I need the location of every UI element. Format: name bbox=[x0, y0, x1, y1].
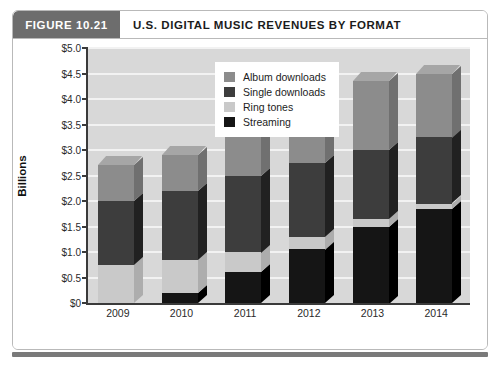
bar-segment bbox=[416, 204, 452, 209]
bar-segment-side bbox=[389, 73, 398, 150]
bar-segment bbox=[289, 237, 325, 250]
legend-label: Album downloads bbox=[243, 71, 326, 83]
legend-swatch bbox=[224, 72, 235, 82]
legend-item: Single downloads bbox=[224, 84, 326, 99]
gridline bbox=[88, 277, 470, 279]
y-axis-tick bbox=[82, 73, 88, 75]
y-axis-tick bbox=[82, 226, 88, 228]
x-tick-labels: 200920102011201220132014 bbox=[86, 307, 470, 327]
x-tick-label: 2012 bbox=[297, 307, 320, 319]
gridline bbox=[88, 175, 470, 177]
bar-segment-side bbox=[452, 129, 461, 203]
gridline bbox=[88, 149, 470, 151]
x-tick-label: 2010 bbox=[170, 307, 193, 319]
legend-item: Ring tones bbox=[224, 99, 326, 114]
legend-label: Single downloads bbox=[243, 86, 325, 98]
bar-segment-top bbox=[416, 65, 460, 74]
y-axis-tick bbox=[82, 47, 88, 49]
bar-segment bbox=[289, 249, 325, 303]
bar-segment bbox=[225, 176, 261, 253]
bar-segment-side bbox=[389, 218, 398, 303]
x-tick-label: 2014 bbox=[424, 307, 447, 319]
bar-segment bbox=[162, 191, 198, 260]
legend-swatch bbox=[224, 87, 235, 97]
bar-stack bbox=[98, 48, 134, 303]
bar-segment bbox=[353, 227, 389, 304]
bar-segment-side bbox=[389, 142, 398, 219]
bar-segment bbox=[353, 81, 389, 150]
bar-segment bbox=[162, 260, 198, 293]
y-tick-label: $0 bbox=[70, 298, 81, 309]
legend-item: Streaming bbox=[224, 114, 326, 129]
figure-title: U.S. DIGITAL MUSIC REVENUES BY FORMAT bbox=[133, 11, 401, 38]
y-axis-title: Billions bbox=[16, 155, 28, 197]
y-axis-tick bbox=[82, 98, 88, 100]
bar-segment-side bbox=[261, 167, 270, 252]
y-axis-tick bbox=[82, 277, 88, 279]
y-tick-label: $4.5 bbox=[62, 68, 81, 79]
y-axis-tick bbox=[82, 149, 88, 151]
bar-segment bbox=[353, 150, 389, 219]
x-tick-label: 2009 bbox=[106, 307, 129, 319]
bar-segment bbox=[225, 272, 261, 303]
bar-stack bbox=[416, 48, 452, 303]
y-axis-tick bbox=[82, 124, 88, 126]
bar-segment-side bbox=[198, 183, 207, 260]
gridline bbox=[88, 200, 470, 202]
bar-segment bbox=[98, 201, 134, 265]
bar-segment-side bbox=[134, 193, 143, 265]
bar-segment-side bbox=[452, 201, 461, 303]
bar-stack bbox=[353, 48, 389, 303]
y-tick-label: $3.5 bbox=[62, 119, 81, 130]
y-axis-tick bbox=[82, 251, 88, 253]
bar-segment bbox=[162, 155, 198, 191]
y-tick-label: $1.5 bbox=[62, 221, 81, 232]
legend-swatch bbox=[224, 117, 235, 127]
bar-segment-side bbox=[325, 155, 334, 237]
y-axis-tick bbox=[82, 200, 88, 202]
x-tick-label: 2013 bbox=[361, 307, 384, 319]
chart-legend: Album downloadsSingle downloadsRing tone… bbox=[215, 62, 339, 137]
bar-segment-top bbox=[162, 146, 206, 155]
plot-region: Album downloadsSingle downloadsRing tone… bbox=[86, 48, 470, 303]
figure-number-tab: FIGURE 10.21 bbox=[13, 11, 120, 38]
y-tick-label: $4.0 bbox=[62, 94, 81, 105]
bar-segment bbox=[225, 252, 261, 272]
footer-rule bbox=[12, 352, 488, 357]
bar-stack bbox=[162, 48, 198, 303]
y-tick-label: $1.0 bbox=[62, 247, 81, 258]
bar-segment bbox=[289, 163, 325, 237]
bar-segment bbox=[162, 293, 198, 303]
y-tick-label: $2.5 bbox=[62, 170, 81, 181]
gridline bbox=[88, 251, 470, 253]
legend-label: Ring tones bbox=[243, 101, 293, 113]
y-tick-label: $3.0 bbox=[62, 145, 81, 156]
bar-segment bbox=[353, 219, 389, 227]
legend-swatch bbox=[224, 102, 235, 112]
figure-card: FIGURE 10.21 U.S. DIGITAL MUSIC REVENUES… bbox=[12, 10, 488, 350]
x-tick-label: 2011 bbox=[234, 307, 257, 319]
bar-segment-top bbox=[353, 72, 397, 81]
chart-area: Billions $0$0.5$1.0$1.5$2.0$2.5$3.0$3.5$… bbox=[13, 39, 487, 350]
y-axis: Billions $0$0.5$1.0$1.5$2.0$2.5$3.0$3.5$… bbox=[13, 48, 81, 303]
bar-segment bbox=[98, 165, 134, 201]
gridline bbox=[88, 47, 470, 49]
y-axis-tick bbox=[82, 175, 88, 177]
y-tick-label: $0.5 bbox=[62, 272, 81, 283]
bar-segment bbox=[416, 137, 452, 203]
bar-segment bbox=[98, 265, 134, 303]
y-tick-label: $5.0 bbox=[62, 43, 81, 54]
bar-segment-side bbox=[452, 65, 461, 137]
bar-segment bbox=[416, 74, 452, 138]
bar-segment-side bbox=[325, 241, 334, 303]
figure-header: FIGURE 10.21 U.S. DIGITAL MUSIC REVENUES… bbox=[13, 11, 487, 39]
gridline bbox=[88, 226, 470, 228]
x-axis-line bbox=[86, 303, 470, 305]
legend-label: Streaming bbox=[243, 116, 291, 128]
legend-item: Album downloads bbox=[224, 69, 326, 84]
y-tick-label: $2.0 bbox=[62, 196, 81, 207]
bar-segment bbox=[416, 209, 452, 303]
